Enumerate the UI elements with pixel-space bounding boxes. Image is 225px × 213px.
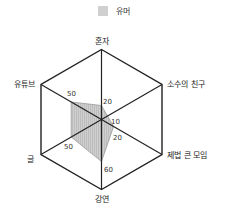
value-label-friends: 10 (111, 118, 120, 126)
value-label-gathering: 20 (113, 134, 122, 142)
axis-label-lecture: 강연 (95, 194, 109, 204)
series-polygon-humor (71, 102, 113, 162)
axis-label-honja: 혼자 (95, 36, 110, 46)
radar-chart: 혼자 소수의 친구 제법 큰 모임 강연 글 유튜브 20 10 20 60 5… (0, 0, 225, 213)
axis-label-gathering: 제법 큰 모임 (167, 150, 207, 160)
value-label-lecture: 60 (104, 166, 113, 174)
value-label-writing: 50 (64, 143, 73, 151)
axis-label-writing: 글 (27, 155, 34, 164)
axis-label-friends: 소수의 친구 (167, 79, 205, 89)
radar-spokes (41, 50, 162, 190)
value-label-youtube: 50 (67, 90, 76, 98)
axis-label-youtube: 유튜브 (14, 80, 35, 89)
value-label-honja: 20 (103, 98, 112, 106)
